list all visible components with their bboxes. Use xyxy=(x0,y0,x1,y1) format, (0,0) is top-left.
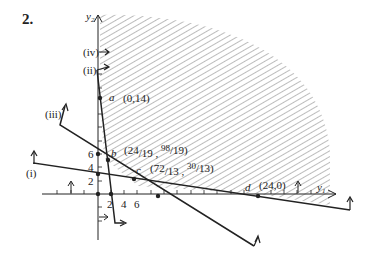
svg-text:a: a xyxy=(109,91,115,103)
svg-text:b: b xyxy=(111,147,117,159)
label-iii: (iii) xyxy=(45,108,62,121)
x-tick-4: 4 xyxy=(121,198,127,210)
problem-number: 2. xyxy=(22,11,34,27)
svg-text:(0,14): (0,14) xyxy=(123,92,150,105)
feasible-region-shading xyxy=(100,15,330,205)
y-tick-6: 6 xyxy=(88,148,94,160)
label-i: (i) xyxy=(26,167,37,180)
svg-text:d: d xyxy=(245,181,251,193)
feasible-region-diagram: 2. y1 2 4 6 y2 2 4 6 xyxy=(0,0,372,275)
svg-text:y2: y2 xyxy=(85,10,95,24)
label-ii: (ii) xyxy=(83,64,97,77)
x-tick-6: 6 xyxy=(134,198,140,210)
label-iv: (iv) xyxy=(83,46,99,59)
svg-text:c: c xyxy=(136,164,141,176)
svg-text:(24,0): (24,0) xyxy=(259,179,286,192)
y-tick-2: 2 xyxy=(88,175,94,187)
